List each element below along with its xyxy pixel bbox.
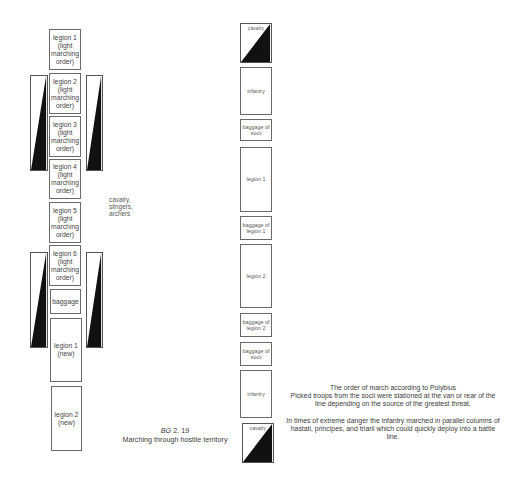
unit-label: legion 2 (light marching order) xyxy=(51,78,79,110)
unit-cavalry-van: cavalry xyxy=(240,23,272,63)
unit-legion-1-new: legion 1 (new) xyxy=(50,318,82,382)
unit-label: baggage of legion 2 xyxy=(243,319,270,332)
caption-reference: BG 2. 19 xyxy=(100,426,250,435)
unit-label: legion 3 (light marching order) xyxy=(51,121,79,153)
unit-baggage-legion-1: baggage of legion 1 xyxy=(240,216,272,240)
unit-label: baggage of socii xyxy=(243,124,270,137)
unit-baggage: baggage xyxy=(50,289,81,314)
flank-wedge-right-lower xyxy=(86,252,103,348)
unit-legion-2-light: legion 2 (light marching order) xyxy=(49,73,81,114)
caption-paragraph-1: Picked troops from the socii were statio… xyxy=(285,392,501,408)
unit-baggage-legion-2: baggage of legion 2 xyxy=(240,313,272,337)
unit-legion-1: legion 1 xyxy=(240,147,272,212)
flank-wedge-right-upper xyxy=(86,75,103,171)
flank-wedge-left-lower xyxy=(30,252,48,348)
unit-label: legion 1 xyxy=(247,176,266,182)
unit-label: legion 5 (light marching order) xyxy=(51,207,79,239)
cavalry-flank-wedge-icon xyxy=(87,253,102,347)
caption-title: The order of march according to Polybius xyxy=(285,384,501,392)
unit-legion-2: legion 2 xyxy=(240,244,272,308)
caption-ref-number: 2. 19 xyxy=(173,426,189,435)
cavalry-flank-wedge-icon xyxy=(31,253,47,347)
unit-label: legion 4 (light marching order) xyxy=(51,163,79,195)
unit-label: baggage xyxy=(52,298,78,306)
cavalry-flank-wedge-icon xyxy=(31,76,47,170)
unit-label: legion 2 (new) xyxy=(55,411,79,427)
unit-legion-5-light: legion 5 (light marching order) xyxy=(49,202,81,243)
unit-legion-6-light: legion 6 (light marching order) xyxy=(49,245,81,286)
left-diagram-caption: BG 2. 19 Marching through hostile territ… xyxy=(100,426,250,444)
unit-label: baggage of socii xyxy=(243,348,270,361)
unit-legion-3-light: legion 3 (light marching order) xyxy=(49,116,81,157)
unit-label: legion 6 (light marching order) xyxy=(51,250,79,282)
caption-subtitle: Marching through hostile territory xyxy=(100,435,250,444)
unit-baggage-socii-rear: baggage of socii xyxy=(240,342,272,366)
caption-paragraph-2: In times of extreme danger the infantry … xyxy=(285,417,501,442)
unit-legion-1-light: legion 1 (light marching order) xyxy=(49,29,81,70)
unit-baggage-socii-van: baggage of socii xyxy=(240,119,272,141)
unit-cavalry-rear: cavalry xyxy=(242,423,274,463)
unit-infantry-van: infantry xyxy=(240,67,272,115)
flank-troops-note: cavalry, slingers, archers xyxy=(109,196,149,218)
unit-label: cavalry xyxy=(243,425,273,431)
right-diagram-caption: The order of march according to Polybius… xyxy=(285,384,501,441)
unit-label: baggage of legion 1 xyxy=(243,222,270,235)
flank-wedge-left-upper xyxy=(30,75,48,171)
unit-label: infantry xyxy=(247,88,265,94)
caption-ref-work: BG xyxy=(161,426,171,435)
unit-label: infantry xyxy=(247,391,265,397)
unit-label: cavalry xyxy=(241,25,271,31)
unit-label: legion 2 xyxy=(247,273,266,279)
unit-legion-2-new: legion 2 (new) xyxy=(51,386,82,451)
unit-label: legion 1 (new) xyxy=(54,342,78,358)
unit-legion-4-light: legion 4 (light marching order) xyxy=(49,159,81,199)
unit-infantry-rear: infantry xyxy=(240,370,272,418)
cavalry-flank-wedge-icon xyxy=(87,76,102,170)
unit-label: legion 1 (light marching order) xyxy=(51,34,79,66)
